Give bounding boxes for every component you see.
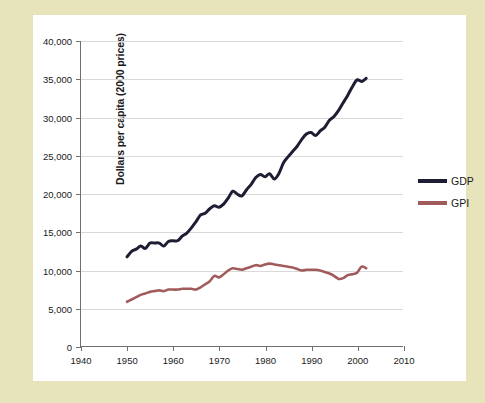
y-tick-label: 35,000 bbox=[43, 74, 72, 85]
x-tick-mark bbox=[404, 346, 405, 351]
legend-swatch-gpi bbox=[418, 201, 447, 204]
y-tick-label: 10,000 bbox=[43, 265, 72, 276]
x-tick-label: 1940 bbox=[70, 355, 91, 366]
y-tick-label: 15,000 bbox=[43, 227, 72, 238]
legend-label: GPI bbox=[451, 197, 469, 209]
x-tick-label: 1990 bbox=[301, 355, 322, 366]
x-tick-label: 1970 bbox=[209, 355, 230, 366]
x-tick-mark bbox=[358, 346, 359, 351]
chart-legend: GDPGPI bbox=[418, 170, 474, 214]
y-tick-label: 5,000 bbox=[48, 303, 72, 314]
x-tick-mark bbox=[127, 346, 128, 351]
y-tick-label: 30,000 bbox=[43, 112, 72, 123]
series-lines bbox=[81, 41, 403, 346]
figure-frame: Dollars per capita (2000 prices) 05,0001… bbox=[0, 0, 485, 403]
x-tick-mark bbox=[266, 346, 267, 351]
legend-item-gdp[interactable]: GDP bbox=[418, 170, 474, 192]
x-tick-mark bbox=[173, 346, 174, 351]
x-tick-mark bbox=[81, 346, 82, 351]
x-tick-label: 2000 bbox=[347, 355, 368, 366]
y-tick-label: 25,000 bbox=[43, 150, 72, 161]
y-tick-label: 40,000 bbox=[43, 36, 72, 47]
x-tick-mark bbox=[312, 346, 313, 351]
series-line-gdp bbox=[127, 78, 366, 256]
legend-swatch-gdp bbox=[418, 179, 447, 182]
series-line-gpi bbox=[127, 264, 366, 302]
legend-label: GDP bbox=[451, 175, 474, 187]
x-tick-label: 1980 bbox=[255, 355, 276, 366]
figure-canvas: Dollars per capita (2000 prices) 05,0001… bbox=[33, 15, 466, 381]
x-tick-label: 2010 bbox=[393, 355, 414, 366]
y-tick-label: 0 bbox=[67, 342, 72, 353]
legend-item-gpi[interactable]: GPI bbox=[418, 192, 474, 214]
x-tick-mark bbox=[219, 346, 220, 351]
x-tick-label: 1960 bbox=[163, 355, 184, 366]
x-tick-label: 1950 bbox=[117, 355, 138, 366]
y-tick-label: 20,000 bbox=[43, 189, 72, 200]
plot-area: 05,00010,00015,00020,00025,00030,00035,0… bbox=[80, 41, 403, 347]
